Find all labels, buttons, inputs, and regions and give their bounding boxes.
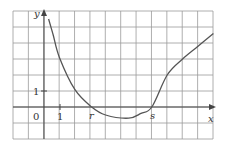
y-one-label: 1 <box>33 86 39 97</box>
x-one-label: 1 <box>57 111 63 122</box>
y-axis-label: y <box>33 8 40 19</box>
root-s-label: s <box>150 110 155 121</box>
grid <box>13 11 213 139</box>
x-axis-arrow-icon <box>209 104 216 110</box>
y-axis-arrow-icon <box>41 9 47 16</box>
x-axis-label: x <box>208 113 214 124</box>
function-curve <box>49 19 214 118</box>
y-axis <box>41 9 47 139</box>
function-graph: y x 0 1 1 r s <box>0 0 225 144</box>
root-r-label: r <box>89 110 95 121</box>
origin-label: 0 <box>33 111 39 122</box>
